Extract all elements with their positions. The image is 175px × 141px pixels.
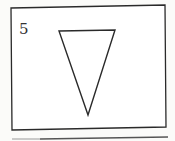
figure-number-label: 5 bbox=[19, 22, 29, 37]
figure-panel: 5 bbox=[0, 0, 175, 141]
next-frame-top-edge bbox=[40, 137, 168, 139]
